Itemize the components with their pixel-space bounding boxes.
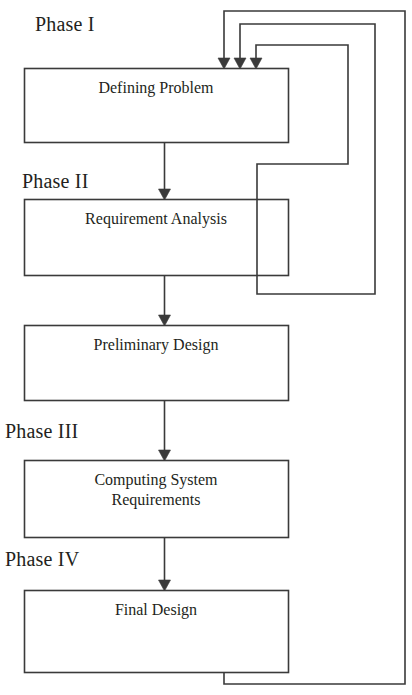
arrowhead-feedback-outer [218, 58, 230, 69]
box-label-requirement-analysis: Requirement Analysis [24, 209, 288, 229]
phase-label-phase-1: Phase I [35, 13, 95, 36]
arrowhead-arrow-computing-to-final [159, 580, 171, 591]
box-label-preliminary-design: Preliminary Design [24, 335, 288, 355]
box-label-final-design: Final Design [24, 600, 288, 620]
arrowhead-feedback-inner [250, 58, 262, 69]
arrowhead-arrow-preliminary-to-computing [159, 450, 171, 461]
phase-label-phase-3: Phase III [5, 420, 78, 443]
flowchart-diagram: Phase IPhase IIPhase IIIPhase IV Definin… [0, 0, 412, 695]
arrowhead-feedback-middle [234, 58, 246, 69]
arrowhead-arrow-problem-to-requirement [159, 189, 171, 200]
arrowhead-arrow-requirement-to-preliminary [159, 315, 171, 326]
phase-label-phase-2: Phase II [22, 170, 89, 193]
phase-label-phase-4: Phase IV [5, 548, 79, 571]
box-label-computing-system-requirements: Computing System Requirements [24, 470, 288, 511]
box-label-defining-problem: Defining Problem [24, 78, 288, 98]
process-box-group [25, 69, 289, 673]
feedback-path-feedback-middle [240, 24, 375, 294]
